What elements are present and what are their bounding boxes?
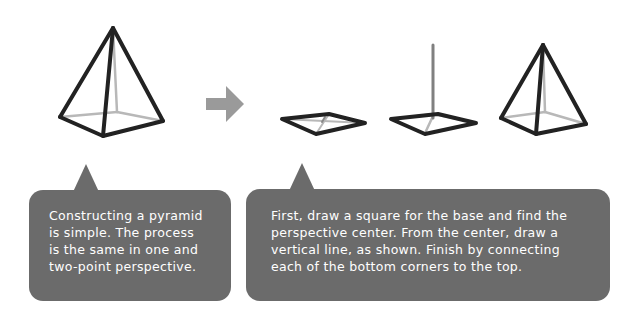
finished-pyramid xyxy=(60,28,163,136)
callout-pointer xyxy=(73,164,99,192)
step-3-pyramid xyxy=(501,45,586,134)
steps-callout-text: First, draw a square for the base and fi… xyxy=(271,207,610,275)
right-arrow-icon xyxy=(206,86,244,122)
intro-callout-text: Constructing a pyramid is simple. The pr… xyxy=(49,207,231,275)
callout-pointer xyxy=(289,163,315,191)
step-2-vertical xyxy=(391,45,476,134)
step-1-base xyxy=(282,114,365,134)
steps-callout: First, draw a square for the base and fi… xyxy=(246,189,610,301)
intro-callout: Constructing a pyramid is simple. The pr… xyxy=(29,190,231,301)
